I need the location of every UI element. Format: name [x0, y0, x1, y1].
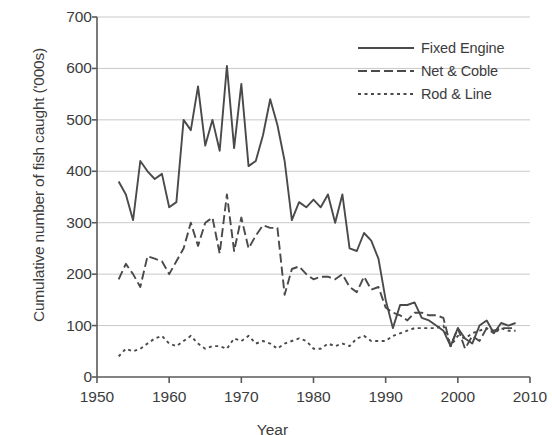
- x-axis-title: Year: [0, 421, 545, 435]
- x-tick-label: 2000: [428, 388, 488, 406]
- y-tick-label: 500: [46, 111, 92, 129]
- y-tick-label: 400: [46, 162, 92, 180]
- y-tick-label: 300: [46, 214, 92, 232]
- x-tick-label: 1950: [67, 388, 127, 406]
- legend-item-rod-line: Rod & Line: [358, 82, 504, 105]
- legend-line-icon: [358, 87, 414, 101]
- legend-item-label: Fixed Engine: [421, 40, 504, 56]
- x-tick-label: 2010: [500, 388, 552, 406]
- series-line-fixed-engine: [119, 66, 516, 346]
- legend-line-icon: [358, 41, 414, 55]
- x-tick-label: 1970: [211, 388, 271, 406]
- y-tick-label: 600: [46, 59, 92, 77]
- y-tick-label: 100: [46, 317, 92, 335]
- legend-line-icon: [358, 64, 414, 78]
- legend-item-label: Rod & Line: [421, 86, 492, 102]
- chart-legend: Fixed EngineNet & CobleRod & Line: [358, 36, 504, 105]
- x-tick-label: 1980: [284, 388, 344, 406]
- x-tick-label: 1960: [139, 388, 199, 406]
- legend-item-label: Net & Coble: [421, 63, 498, 79]
- y-tick-label: 0: [46, 368, 92, 386]
- y-tick-label: 200: [46, 265, 92, 283]
- legend-item-fixed-engine: Fixed Engine: [358, 36, 504, 59]
- x-tick-label: 1990: [356, 388, 416, 406]
- legend-item-net-coble: Net & Coble: [358, 59, 504, 82]
- y-axis-tick-labels: 7006005004003002001000: [40, 0, 92, 435]
- y-tick-label: 700: [46, 8, 92, 26]
